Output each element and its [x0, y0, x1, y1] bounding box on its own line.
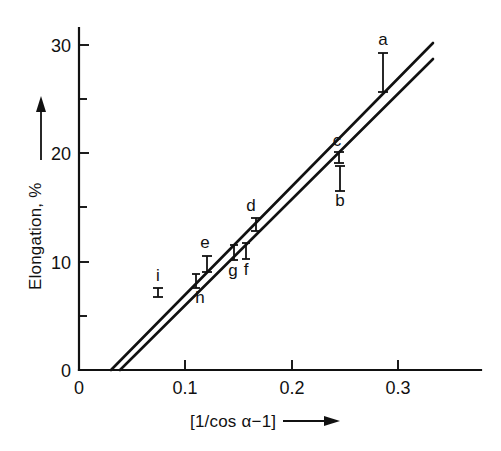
x-tick-label-0.1: 0.1	[172, 378, 197, 398]
x-axis-arrow-icon	[283, 416, 340, 426]
x-axis-tick-labels: 0 0.1 0.2 0.3	[74, 378, 411, 398]
y-tick-label-30: 30	[51, 36, 71, 56]
data-point-label-h: h	[195, 288, 204, 307]
lower-fit-line	[120, 59, 433, 370]
data-point-i: i	[153, 266, 163, 297]
data-point-a: a	[378, 30, 388, 92]
y-tick-label-0: 0	[61, 361, 71, 381]
y-axis-tick-labels: 30 20 10 0	[51, 36, 71, 381]
data-points: a c b d f	[153, 30, 388, 307]
data-point-label-c: c	[333, 131, 342, 150]
elongation-vs-cos-alpha-chart: 30 20 10 0 0 0.1 0.2 0.3 Elongation, % […	[0, 0, 501, 451]
x-axis-title: [1/cos α−1]	[190, 412, 276, 431]
data-point-label-b: b	[335, 191, 344, 210]
y-tick-label-10: 10	[51, 253, 71, 273]
data-point-label-d: d	[246, 196, 255, 215]
y-axis-minor-ticks	[79, 99, 87, 316]
x-tick-label-0.2: 0.2	[279, 378, 304, 398]
y-axis-arrow-icon	[36, 96, 46, 160]
data-point-label-i: i	[156, 266, 160, 285]
x-tick-label-0: 0	[74, 378, 84, 398]
data-point-e: e	[200, 233, 212, 272]
y-axis-title: Elongation, %	[26, 182, 45, 290]
data-point-h: h	[192, 274, 205, 307]
x-axis-title-group: [1/cos α−1]	[190, 412, 340, 431]
y-tick-label-20: 20	[51, 144, 71, 164]
data-point-b: b	[335, 166, 345, 210]
x-axis-title-text: [1/cos α−1]	[190, 412, 276, 431]
data-point-label-e: e	[200, 233, 209, 252]
data-point-label-g: g	[228, 261, 237, 280]
data-point-label-f: f	[244, 260, 249, 279]
data-point-label-a: a	[378, 30, 388, 49]
y-axis-title-group: Elongation, %	[26, 96, 46, 290]
x-tick-label-0.3: 0.3	[385, 378, 410, 398]
